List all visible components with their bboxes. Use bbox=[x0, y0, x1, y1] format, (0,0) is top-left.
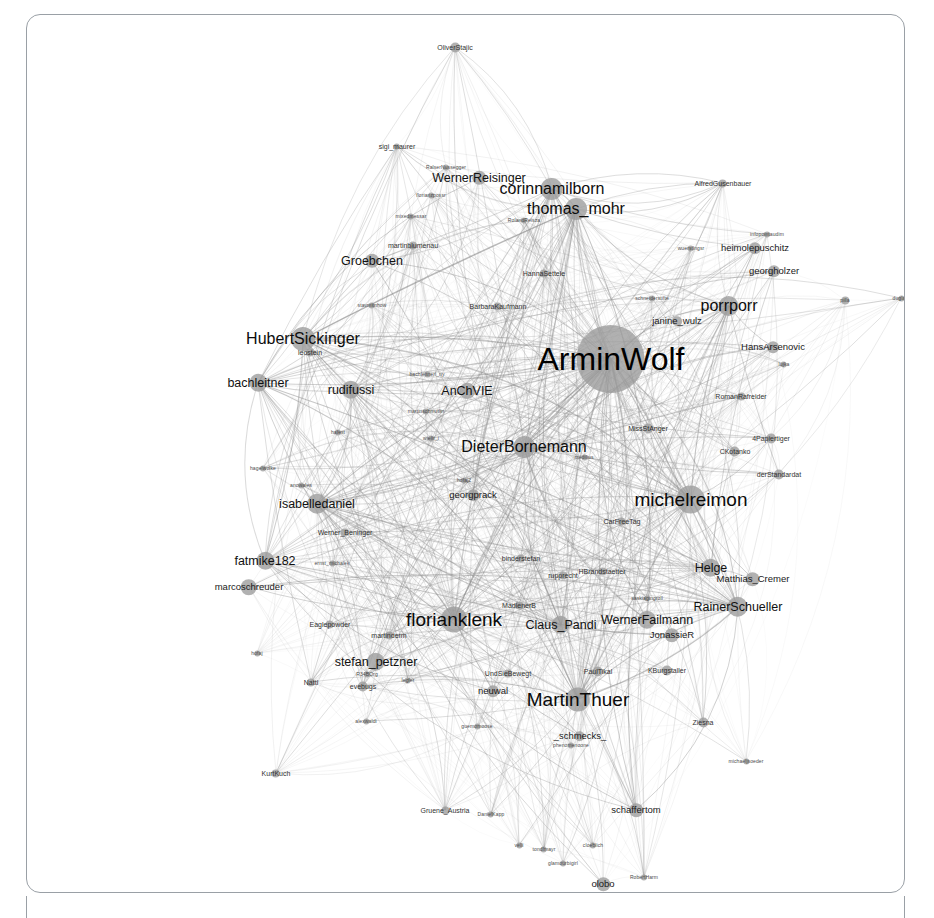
graph-node[interactable]: CarFreeTag bbox=[604, 518, 641, 525]
graph-node[interactable]: UndSieBewegt bbox=[485, 670, 531, 677]
graph-node[interactable]: thomas_mohr bbox=[527, 201, 625, 217]
graph-node[interactable]: janine_wulz bbox=[652, 316, 702, 326]
graph-node[interactable]: wuerstlngsr bbox=[678, 246, 705, 251]
graph-node[interactable]: CKotanko bbox=[720, 448, 751, 455]
graph-node[interactable]: binderstefan bbox=[502, 555, 541, 562]
graph-node[interactable]: _schmecks_ bbox=[554, 731, 607, 741]
graph-node[interactable]: corinnamilborn bbox=[500, 181, 605, 197]
graph-node[interactable]: florianzpossr bbox=[416, 193, 446, 198]
graph-node[interactable]: heimolepuschitz bbox=[721, 243, 789, 253]
graph-node[interactable]: derStandardat bbox=[757, 471, 801, 478]
graph-node[interactable]: tondlmayr bbox=[533, 847, 556, 852]
graph-node[interactable]: michelreimon bbox=[635, 490, 748, 509]
graph-node[interactable]: neuwal bbox=[478, 686, 508, 696]
graph-node[interactable]: evebugs bbox=[350, 683, 376, 690]
graph-node[interactable]: velli bbox=[514, 843, 523, 848]
graph-node[interactable]: ArminWolf bbox=[538, 343, 685, 375]
graph-node[interactable]: MadlenerB bbox=[502, 602, 536, 609]
graph-node[interactable]: 4Papiertiger bbox=[752, 435, 790, 442]
graph-node[interactable]: porrporr bbox=[701, 298, 758, 314]
node-label: saskiagingroll bbox=[631, 596, 663, 601]
graph-node[interactable]: michaeljsoeder bbox=[728, 759, 763, 764]
graph-node[interactable]: Ziesna bbox=[692, 719, 713, 726]
graph-node[interactable]: rupprecht bbox=[548, 572, 578, 579]
graph-node[interactable]: HannaSettele bbox=[523, 270, 565, 277]
graph-node[interactable]: AlfredGusenbauer bbox=[695, 180, 752, 187]
graph-node[interactable]: leostein bbox=[298, 349, 322, 356]
graph-node[interactable]: legler bbox=[402, 678, 415, 683]
graph-node[interactable]: georgholzer bbox=[749, 266, 799, 276]
graph-node[interactable]: Eaglepowder bbox=[310, 621, 351, 628]
graph-node[interactable]: florianklenk bbox=[406, 610, 502, 629]
graph-node[interactable]: WernerFailmann bbox=[601, 614, 693, 627]
graph-node[interactable]: infopointaudim bbox=[750, 232, 784, 237]
graph-node[interactable]: RobertHarm bbox=[630, 875, 658, 880]
graph-node[interactable]: HansArsenovic bbox=[741, 342, 805, 352]
graph-node[interactable]: sigi_maurer bbox=[379, 143, 416, 150]
graph-node[interactable]: pilla bbox=[840, 298, 849, 303]
graph-node[interactable]: R34BOrg bbox=[356, 672, 378, 677]
graph-node[interactable]: DieterBornemann bbox=[461, 439, 586, 455]
graph-node[interactable]: olobo bbox=[591, 879, 614, 889]
graph-node[interactable]: martinderm bbox=[371, 632, 406, 639]
graph-node[interactable]: saskiagingroll bbox=[631, 596, 663, 601]
graph-node[interactable]: OliverStajic bbox=[437, 44, 472, 51]
graph-node[interactable]: DanielKapp bbox=[478, 812, 505, 817]
graph-node[interactable]: fatmike182 bbox=[234, 555, 295, 568]
graph-node[interactable]: Gruene_Austria bbox=[420, 807, 469, 814]
node-label: infopointaudim bbox=[750, 232, 784, 237]
graph-node[interactable]: hofaj2 bbox=[457, 478, 471, 483]
graph-node[interactable]: hafest bbox=[331, 430, 345, 435]
graph-node[interactable]: glamourbigirl bbox=[548, 861, 578, 866]
node-label: MartinThuer bbox=[527, 690, 629, 709]
graph-node[interactable]: bachleitneri_ny bbox=[409, 372, 444, 377]
node-label: KurtKuch bbox=[262, 770, 291, 777]
node-label: velli bbox=[514, 843, 523, 848]
graph-node[interactable]: MissStAnger bbox=[628, 425, 668, 432]
graph-node[interactable]: mixedmessar bbox=[396, 214, 427, 219]
graph-node[interactable]: hagelwolke bbox=[250, 466, 276, 471]
graph-node[interactable]: schaffertom bbox=[611, 805, 660, 815]
graph-node[interactable]: Groebchen bbox=[341, 255, 403, 268]
graph-node[interactable]: BarbaraKaufmann bbox=[470, 303, 527, 310]
graph-node[interactable]: JonassieR bbox=[650, 630, 694, 640]
graph-node[interactable]: guemomoose bbox=[461, 724, 492, 729]
graph-node[interactable]: hofaj bbox=[251, 651, 262, 656]
graph-node[interactable]: lujka bbox=[779, 362, 790, 367]
graph-nodes-layer[interactable]: OliverStajicsigi_maurerRalserNusseggerWe… bbox=[27, 15, 904, 892]
graph-node[interactable]: stefan_petzner bbox=[335, 656, 418, 669]
graph-node[interactable]: isabelledaniel bbox=[279, 498, 355, 511]
graph-node[interactable]: PaulTikal bbox=[584, 668, 613, 675]
graph-node[interactable]: RalserNussegger bbox=[426, 165, 466, 170]
graph-node[interactable]: KBurgstaller bbox=[648, 667, 686, 674]
graph-node[interactable]: HubertSickinger bbox=[246, 331, 360, 347]
graph-node[interactable]: phenomenoone bbox=[553, 743, 589, 748]
graph-node[interactable]: RolandReisza bbox=[508, 218, 540, 223]
graph-node[interactable]: AnChVIE bbox=[441, 385, 492, 398]
network-graph-canvas[interactable]: OliverStajicsigi_maurerRalserNusseggerWe… bbox=[27, 15, 904, 892]
graph-node[interactable]: martinschmutlin bbox=[408, 409, 445, 414]
graph-node[interactable]: Nattl bbox=[304, 679, 318, 686]
graph-node[interactable]: RainerSchueller bbox=[694, 601, 783, 614]
graph-node[interactable]: Matthias_Cremer bbox=[717, 574, 790, 584]
graph-node[interactable]: martinblumenau bbox=[388, 242, 438, 249]
graph-node[interactable]: stavmitnhow bbox=[358, 303, 387, 308]
graph-node[interactable]: georgprack bbox=[449, 490, 497, 500]
graph-node[interactable]: alexwaldi bbox=[355, 719, 376, 724]
graph-node[interactable]: MartinThuer bbox=[527, 690, 629, 709]
graph-node[interactable]: RomanRafreider bbox=[715, 393, 766, 400]
graph-node[interactable]: bachleitner bbox=[227, 377, 288, 390]
graph-node[interactable]: duglam bbox=[893, 296, 905, 301]
graph-node[interactable]: schneiderstifte bbox=[635, 296, 669, 301]
graph-node[interactable]: medilius bbox=[574, 455, 593, 460]
graph-node[interactable]: ernst_michalek bbox=[314, 561, 349, 566]
graph-node[interactable]: KurtKuch bbox=[262, 770, 291, 777]
graph-node[interactable]: Werner_Beninger bbox=[318, 529, 373, 536]
graph-node[interactable]: anowales bbox=[290, 483, 312, 488]
graph-node[interactable]: cloeblich bbox=[583, 843, 603, 848]
graph-node[interactable]: marcoschreuder bbox=[215, 582, 284, 592]
graph-node[interactable]: HBrandstaetter bbox=[578, 568, 625, 575]
graph-node[interactable]: Claus_Pandi bbox=[526, 619, 597, 632]
graph-node[interactable]: wielir_i bbox=[423, 436, 439, 441]
graph-node[interactable]: rudifussi bbox=[328, 384, 375, 397]
